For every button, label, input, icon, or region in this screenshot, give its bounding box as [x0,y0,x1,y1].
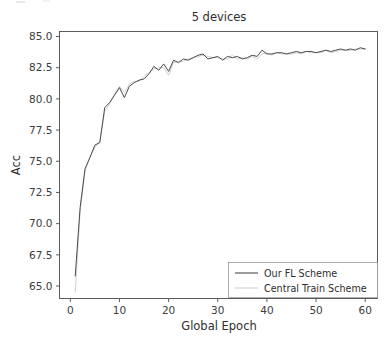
y-tick-label: 75.0 [29,155,52,167]
legend-label-central-train-scheme: Central Train Scheme [264,283,367,294]
x-tick-label: 60 [359,304,372,316]
line-chart: 5 devices 0102030405060 65.067.570.072.5… [0,0,392,348]
y-tick-label: 72.5 [29,186,52,198]
x-tick-label: 20 [162,304,175,316]
y-tick-label: 77.5 [29,124,52,136]
scan-artifact [16,1,25,3]
y-tick-label: 85.0 [29,30,52,42]
scan-artifact-2 [43,0,50,2]
x-tick-label: 50 [309,304,322,316]
x-tick-label: 30 [211,304,224,316]
x-tick-label: 0 [67,304,74,316]
y-tick-label: 65.0 [29,280,52,292]
x-axis-label: Global Epoch [181,319,257,333]
x-tick-label: 40 [260,304,273,316]
legend-label-our-fl-scheme: Our FL Scheme [264,268,337,279]
chart-legend: Our FL Scheme Central Train Scheme [229,263,378,298]
x-tick-label: 10 [113,304,126,316]
chart-title: 5 devices [192,10,247,24]
y-tick-label: 80.0 [29,93,52,105]
y-axis-label: Acc [9,155,23,175]
y-tick-label: 70.0 [29,217,52,229]
y-tick-label: 67.5 [29,249,52,261]
y-tick-label: 82.5 [29,61,52,73]
chart-figure: 5 devices 0102030405060 65.067.570.072.5… [0,0,392,348]
